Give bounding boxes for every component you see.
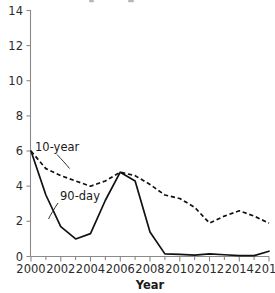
y-tick-marks [27, 11, 31, 257]
x-tick-labels: 2000 2002 2004 2006 2008 2010 2012 2014 … [16, 262, 275, 276]
x-tick-label: 2002 [46, 262, 75, 276]
y-tick-label: 14 [8, 4, 23, 18]
y-tick-labels: 14 12 10 8 6 4 2 0 [8, 4, 23, 264]
y-tick-label: 8 [16, 109, 23, 123]
y-tick-label: 2 [16, 214, 23, 228]
leader-line-10-year [57, 155, 70, 169]
x-tick-label: 2004 [76, 262, 105, 276]
y-tick-label: 10 [8, 74, 23, 88]
x-tick-label: 2016 [254, 262, 275, 276]
x-axis-title: Year [135, 278, 165, 292]
series-line-10-year [31, 151, 269, 223]
line-chart: 14 12 10 8 6 4 2 0 [0, 0, 275, 293]
y-tick-label: 4 [16, 179, 23, 193]
y-tick-label: 12 [8, 39, 23, 53]
x-tick-label: 2000 [16, 262, 45, 276]
series-line-90-day [31, 151, 269, 256]
chart-canvas: 14 12 10 8 6 4 2 0 [0, 0, 275, 293]
x-tick-label: 2012 [195, 262, 224, 276]
x-tick-label: 2010 [165, 262, 194, 276]
series-annotation-10-year: 10-year [35, 140, 80, 154]
series-annotation-90-day: 90-day [60, 189, 100, 203]
x-tick-label: 2006 [106, 262, 135, 276]
x-tick-marks [31, 257, 269, 262]
x-tick-label: 2008 [135, 262, 164, 276]
cropped-title-remnant [89, 0, 134, 2]
y-tick-label: 6 [16, 144, 23, 158]
x-tick-label: 2014 [225, 262, 254, 276]
